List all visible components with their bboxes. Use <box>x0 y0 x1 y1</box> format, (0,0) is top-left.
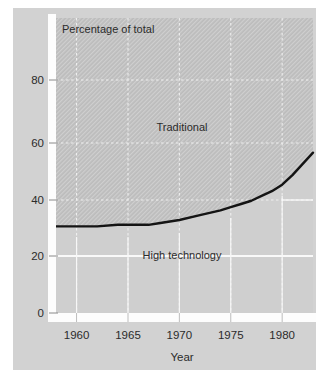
ytick-label-20: 20 <box>31 250 44 262</box>
xtick-label-1965: 1965 <box>115 329 141 341</box>
xtick-label-1975: 1975 <box>218 329 244 341</box>
ytick-label-40: 40 <box>31 194 44 206</box>
ytick-label-80: 80 <box>31 74 44 86</box>
x-axis-title: Year <box>170 351 193 363</box>
axis-gutter-bottom <box>48 313 316 322</box>
xtick-label-1980: 1980 <box>269 329 295 341</box>
plot-area <box>56 18 313 313</box>
plot-header-note: Percentage of total <box>62 23 154 35</box>
ytick-label-60: 60 <box>31 137 44 149</box>
xtick-label-1970: 1970 <box>167 329 193 341</box>
series-label-high-technology: High technology <box>143 249 222 261</box>
xtick-label-1960: 1960 <box>64 329 90 341</box>
axis-gutter-left <box>48 14 56 317</box>
chart-canvas: Percentage of total 80 60 40 20 0 1960 1… <box>0 0 329 382</box>
series-label-traditional: Traditional <box>157 121 208 133</box>
chart-figure: Percentage of total 80 60 40 20 0 1960 1… <box>0 0 329 382</box>
ytick-label-0: 0 <box>38 307 44 319</box>
